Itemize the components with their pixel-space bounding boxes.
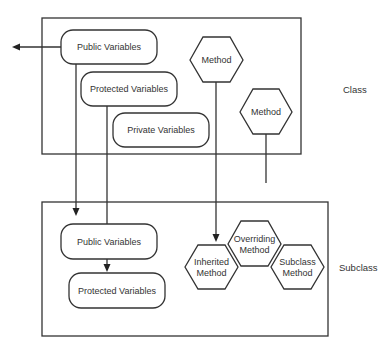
- class-protected-variables: Protected Variables: [81, 72, 177, 106]
- class-public-variables: Public Variables: [61, 30, 157, 64]
- overriding-method-label-line2: Method: [239, 245, 269, 255]
- subclass-public-variables: Public Variables: [61, 224, 157, 259]
- class-method-2: Method: [240, 89, 292, 134]
- external-access-arrowhead: [12, 44, 20, 51]
- inheritance-diagram: Public Variables Protected Variables Pri…: [0, 0, 389, 347]
- subclass-method: Subclass Method: [271, 245, 324, 289]
- subclass-label: Subclass: [339, 262, 378, 273]
- class-private-variables: Private Variables: [113, 113, 209, 147]
- overriding-method-label-line1: Overriding: [234, 234, 276, 244]
- subclass-public-variables-label: Public Variables: [77, 237, 141, 247]
- class-method-2-label: Method: [251, 107, 281, 117]
- overriding-method: Overriding Method: [228, 221, 281, 266]
- inherited-method-label-line1: Inherited: [194, 257, 229, 267]
- method-inheritance-arrowhead: [213, 234, 220, 242]
- public-to-protected-arrowhead: [104, 264, 111, 272]
- class-method-1-label: Method: [201, 55, 231, 65]
- class-method-1: Method: [190, 37, 243, 82]
- class-protected-variables-label: Protected Variables: [90, 84, 168, 94]
- subclass-protected-variables: Protected Variables: [69, 273, 165, 308]
- subclass-protected-variables-label: Protected Variables: [78, 286, 156, 296]
- class-private-variables-label: Private Variables: [127, 125, 195, 135]
- public-inheritance-arrowhead: [73, 208, 80, 216]
- subclass-method-label-line2: Method: [282, 268, 312, 278]
- inherited-method: Inherited Method: [185, 245, 238, 289]
- inherited-method-label-line2: Method: [196, 268, 226, 278]
- class-public-variables-label: Public Variables: [77, 42, 141, 52]
- class-label: Class: [343, 84, 367, 95]
- subclass-method-label-line1: Subclass: [279, 257, 316, 267]
